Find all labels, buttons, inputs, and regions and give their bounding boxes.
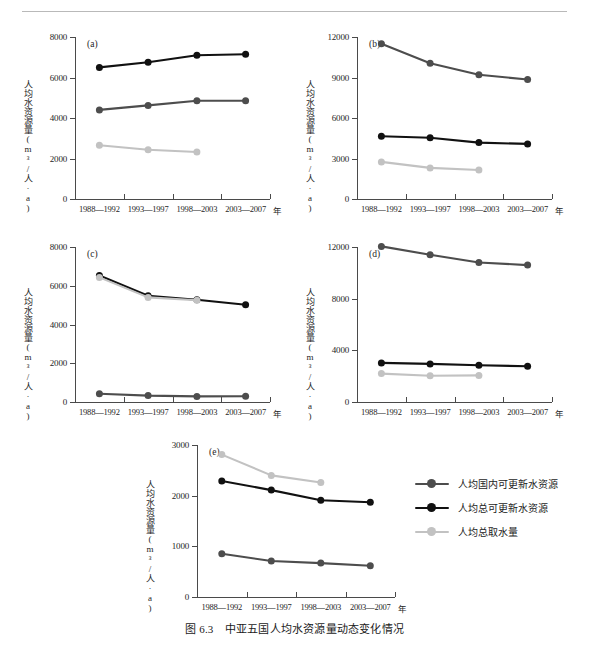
- series-marker: [218, 550, 225, 557]
- series-marker: [427, 251, 434, 258]
- series-marker: [268, 558, 275, 565]
- series-marker: [475, 259, 482, 266]
- legend-label: 人均总取水量: [458, 524, 518, 539]
- series-marker: [268, 487, 275, 494]
- series-marker: [475, 372, 482, 379]
- series-marker: [427, 134, 434, 141]
- chart-legend: 人均国内可更新水资源人均总可更新水资源人均总取水量: [415, 476, 585, 546]
- series-marker: [145, 392, 152, 399]
- series-line: [381, 44, 527, 80]
- series-marker: [268, 472, 275, 479]
- series-marker: [193, 393, 200, 400]
- legend-marker-icon: [415, 478, 449, 490]
- legend-dot-icon: [427, 503, 436, 512]
- legend-dot-icon: [427, 479, 436, 488]
- chart-panel-b: 0300060009000120001988—19921993—19971998…: [300, 30, 582, 233]
- series-marker: [378, 370, 385, 377]
- series-marker: [427, 60, 434, 67]
- series-marker: [378, 158, 385, 165]
- figure-page: 020004000600080001988—19921993—19971998—…: [0, 0, 589, 645]
- series-marker: [193, 52, 200, 59]
- series-marker: [96, 390, 103, 397]
- series-layer: [300, 30, 586, 233]
- legend-item: 人均总可更新水资源: [415, 500, 548, 515]
- series-marker: [475, 139, 482, 146]
- series-marker: [96, 274, 103, 281]
- series-marker: [427, 372, 434, 379]
- series-marker: [193, 149, 200, 156]
- series-line: [99, 101, 245, 110]
- series-line: [381, 246, 527, 265]
- series-marker: [218, 478, 225, 485]
- series-marker: [193, 297, 200, 304]
- chart-panel-e: 01000200030001988—19921993—19971998—2003…: [140, 438, 425, 631]
- series-marker: [367, 499, 374, 506]
- series-line: [99, 276, 245, 305]
- legend-marker-icon: [415, 502, 449, 514]
- chart-panel-a: 020004000600080001988—19921993—19971998—…: [18, 30, 300, 233]
- series-layer: [300, 240, 586, 436]
- series-marker: [317, 497, 324, 504]
- page-top-rule: [22, 11, 567, 12]
- series-marker: [427, 164, 434, 171]
- series-line: [381, 363, 527, 366]
- chart-panel-c: 020004000600080001988—19921993—19971998—…: [18, 240, 300, 436]
- series-layer: [140, 438, 429, 631]
- series-marker: [378, 40, 385, 47]
- series-marker: [242, 393, 249, 400]
- series-marker: [96, 106, 103, 113]
- series-marker: [524, 262, 531, 269]
- series-line: [222, 554, 370, 566]
- series-marker: [145, 59, 152, 66]
- series-marker: [145, 294, 152, 301]
- series-marker: [317, 560, 324, 567]
- series-line: [222, 481, 370, 502]
- figure-caption: 图 6.3 中亚五国人均水资源量动态变化情况: [0, 620, 589, 636]
- series-marker: [242, 51, 249, 58]
- series-layer: [18, 30, 304, 233]
- series-marker: [524, 363, 531, 370]
- series-marker: [242, 301, 249, 308]
- chart-panel-d: 040008000120001988—19921993—19971998—200…: [300, 240, 582, 436]
- series-marker: [378, 243, 385, 250]
- series-marker: [242, 97, 249, 104]
- series-marker: [475, 71, 482, 78]
- legend-item: 人均国内可更新水资源: [415, 476, 558, 491]
- legend-label: 人均国内可更新水资源: [458, 476, 558, 491]
- legend-dot-icon: [427, 527, 436, 536]
- series-marker: [96, 64, 103, 71]
- series-marker: [145, 146, 152, 153]
- series-layer: [18, 240, 304, 436]
- legend-item: 人均总取水量: [415, 524, 518, 539]
- series-line: [99, 54, 245, 67]
- series-marker: [218, 451, 225, 458]
- series-marker: [524, 140, 531, 147]
- series-marker: [317, 479, 324, 486]
- series-marker: [524, 76, 531, 83]
- series-line: [99, 394, 245, 397]
- legend-label: 人均总可更新水资源: [458, 500, 548, 515]
- series-marker: [378, 133, 385, 140]
- series-line: [381, 136, 527, 144]
- series-marker: [367, 562, 374, 569]
- series-marker: [96, 142, 103, 149]
- series-marker: [145, 102, 152, 109]
- series-marker: [193, 97, 200, 104]
- series-marker: [475, 362, 482, 369]
- series-marker: [378, 359, 385, 366]
- series-marker: [475, 167, 482, 174]
- legend-marker-icon: [415, 526, 449, 538]
- series-marker: [427, 360, 434, 367]
